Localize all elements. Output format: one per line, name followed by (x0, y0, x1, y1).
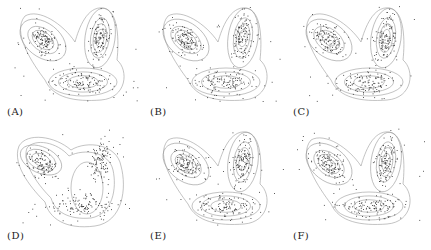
contour-lines (16, 137, 124, 226)
panel-f: (F) (291, 126, 431, 246)
panel-a: (A) (5, 2, 145, 122)
contour-lines (155, 130, 267, 224)
data-points (15, 8, 139, 102)
contour-lines (12, 6, 124, 100)
scatter-plot (5, 126, 145, 231)
panel-d: (D) (5, 126, 145, 246)
scatter-plot (291, 2, 431, 107)
panel-b: (B) (148, 2, 288, 122)
panel-c: (C) (291, 2, 431, 122)
scatter-plot (5, 2, 145, 107)
data-points (297, 129, 425, 221)
panel-label: (D) (7, 230, 24, 241)
contour-lines (298, 130, 410, 224)
panel-label: (E) (150, 230, 167, 241)
panel-label: (C) (293, 106, 310, 117)
scatter-plot (148, 2, 288, 107)
panel-e: (E) (148, 126, 288, 246)
panel-label: (A) (7, 106, 24, 117)
data-points (303, 6, 414, 102)
panel-label: (F) (293, 230, 309, 241)
scatter-plot (291, 126, 431, 231)
scatter-plot (148, 126, 288, 231)
data-points (17, 130, 131, 226)
panel-label: (B) (150, 106, 167, 117)
